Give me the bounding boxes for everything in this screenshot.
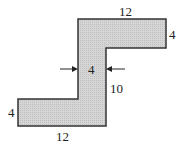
bottom-left-height-label: 4 [8,105,15,120]
z-section-diagram: 12 4 4 10 4 12 [0,0,181,147]
web-width-label: 4 [88,62,95,77]
bottom-width-label: 12 [56,129,69,144]
left-arrow-icon [60,66,78,72]
top-right-height-label: 4 [169,27,176,42]
top-width-label: 12 [119,4,132,19]
web-height-label: 10 [110,81,123,96]
right-arrow-icon [106,66,125,72]
